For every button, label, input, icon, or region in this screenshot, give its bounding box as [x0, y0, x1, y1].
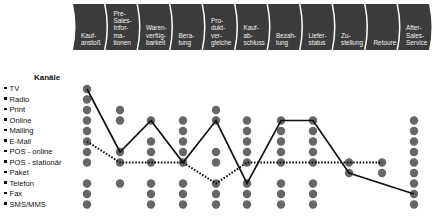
channel-dot	[147, 158, 155, 166]
channel-dot	[243, 190, 251, 198]
channel-dot	[83, 95, 91, 103]
channel-dot	[116, 106, 124, 114]
channel-dot	[147, 190, 155, 198]
channel-dot	[309, 127, 317, 135]
channel-dot	[410, 127, 418, 135]
channel-dot	[147, 200, 155, 208]
channel-dot	[212, 190, 220, 198]
channel-dot	[179, 116, 187, 124]
channel-dot	[147, 148, 155, 156]
channel-dot	[83, 190, 91, 198]
channel-dot	[116, 116, 124, 124]
channel-dot	[179, 179, 187, 187]
channel-dot	[277, 200, 285, 208]
channel-dot	[179, 190, 187, 198]
channel-dot	[277, 137, 285, 145]
channel-dot	[83, 179, 91, 187]
channel-dot	[243, 137, 251, 145]
channel-dot	[345, 158, 353, 166]
channel-dot	[309, 200, 317, 208]
channel-dot	[410, 137, 418, 145]
channel-dot	[277, 190, 285, 198]
channel-dot	[309, 148, 317, 156]
channel-dot	[83, 158, 91, 166]
channel-dot	[410, 179, 418, 187]
channel-dot	[410, 200, 418, 208]
channel-dot	[309, 190, 317, 198]
channel-dot	[243, 148, 251, 156]
channel-dot	[116, 179, 124, 187]
channel-dot	[243, 158, 251, 166]
channel-dot	[179, 127, 187, 135]
channel-dot	[410, 169, 418, 177]
channel-dot	[83, 200, 91, 208]
channel-dot	[277, 179, 285, 187]
channel-dot	[212, 158, 220, 166]
channel-dot	[212, 106, 220, 114]
channel-dot	[243, 200, 251, 208]
channel-dot	[179, 200, 187, 208]
channel-dot	[309, 137, 317, 145]
channel-dot	[243, 116, 251, 124]
dotted-journey-line	[87, 142, 382, 184]
channel-dot	[212, 148, 220, 156]
channel-dot	[410, 148, 418, 156]
channel-dot	[309, 179, 317, 187]
channel-dot	[410, 158, 418, 166]
channel-dot	[212, 200, 220, 208]
channel-dot	[179, 148, 187, 156]
channel-dot	[243, 127, 251, 135]
channel-dot	[378, 169, 386, 177]
channel-dot	[83, 127, 91, 135]
channel-dot	[147, 137, 155, 145]
channel-dot	[83, 148, 91, 156]
channel-dot	[147, 179, 155, 187]
channel-dot	[410, 116, 418, 124]
channel-dot	[83, 106, 91, 114]
channel-dot	[277, 148, 285, 156]
channel-phase-matrix	[0, 0, 439, 221]
channel-dot	[179, 137, 187, 145]
channel-dot	[277, 127, 285, 135]
channel-dot	[83, 116, 91, 124]
